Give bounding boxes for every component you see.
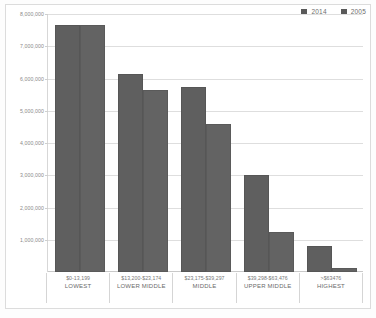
bar-2014-lower-middle[interactable]	[118, 74, 143, 272]
bar-2005-middle[interactable]	[206, 124, 231, 272]
bar-2005-highest[interactable]	[332, 268, 357, 272]
bar-2014-upper-middle[interactable]	[244, 175, 269, 272]
y-tick-label: 4,000,000	[20, 140, 44, 146]
x-axis-cell: $13,200-$23,174LOWER MIDDLE	[109, 273, 173, 303]
x-axis-category-label: LOWER MIDDLE	[110, 282, 172, 291]
y-tick-label: 1,000,000	[20, 237, 44, 243]
bar-group	[174, 14, 237, 272]
y-tick-label: 5,000,000	[20, 108, 44, 114]
x-axis-labels: $0-13,199LOWEST$13,200-$23,174LOWER MIDD…	[47, 273, 363, 303]
y-tick-label: 6,000,000	[20, 76, 44, 82]
y-tick-label: 3,000,000	[20, 172, 44, 178]
bar-2005-lower-middle[interactable]	[143, 90, 168, 272]
y-tick-label: 7,000,000	[20, 43, 44, 49]
y-tick-label: 2,000,000	[20, 205, 44, 211]
bar-2014-lowest[interactable]	[55, 25, 80, 272]
bar-chart: 2014 2005 8,000,0007,000,0006,000,0005,0…	[0, 0, 376, 318]
bar-group	[237, 14, 300, 272]
x-axis-cell: $39,298-$63,476UPPER MIDDLE	[236, 273, 300, 303]
bar-group	[48, 14, 111, 272]
x-axis-cell: >$63476HIGHEST	[299, 273, 363, 303]
y-tick-label: 8,000,000	[20, 11, 44, 17]
plot-inner: 8,000,0007,000,0006,000,0005,000,0004,00…	[47, 14, 363, 272]
x-axis-cell: $23,175-$39,297MIDDLE	[172, 273, 236, 303]
bar-2005-lowest[interactable]	[80, 25, 105, 272]
x-axis-category-label: MIDDLE	[173, 282, 235, 291]
bar-2014-highest[interactable]	[307, 246, 332, 272]
plot-area: 8,000,0007,000,0006,000,0005,000,0004,00…	[47, 14, 363, 272]
x-axis-category-label: LOWEST	[47, 282, 109, 291]
x-axis-category-label: UPPER MIDDLE	[237, 282, 299, 291]
bar-group	[300, 14, 363, 272]
bar-2005-upper-middle[interactable]	[269, 232, 294, 272]
bar-groups	[48, 14, 363, 272]
x-axis-cell: $0-13,199LOWEST	[46, 273, 110, 303]
bar-2014-middle[interactable]	[181, 87, 206, 272]
bar-group	[111, 14, 174, 272]
x-axis-category-label: HIGHEST	[300, 282, 362, 291]
